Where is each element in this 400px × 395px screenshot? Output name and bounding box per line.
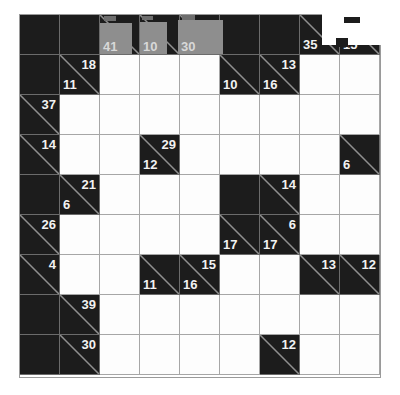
clue-right-value: 41 [103,38,117,51]
highlight-notch-2 [182,15,195,20]
clue-cell: 14 [260,175,300,215]
entry-cell[interactable] [300,215,340,255]
block-cell [260,15,300,55]
clue-down-value: 15 [202,258,216,271]
block-cell [60,15,100,55]
clue-cell: 1516 [180,255,220,295]
entry-cell[interactable] [100,215,140,255]
clue-right-value: 6 [63,198,70,211]
clue-right-value: 10 [223,78,237,91]
entry-cell[interactable] [180,55,220,95]
clue-cell: 12 [340,255,380,295]
block-cell [20,15,60,55]
clue-right-value: 10 [143,38,157,51]
entry-cell[interactable] [100,135,140,175]
clue-down-value: 14 [282,178,296,191]
clue-down-value: 6 [289,218,296,231]
clue-down-value: 12 [282,338,296,351]
clue-down-value: 12 [362,258,376,271]
entry-cell[interactable] [180,135,220,175]
entry-cell[interactable] [140,335,180,375]
block-cell [20,295,60,335]
entry-cell[interactable] [220,255,260,295]
highlight-notch-1 [142,16,153,20]
kakuro-grid[interactable]: 4110303515181110131637142912621614261761… [19,14,381,378]
entry-cell[interactable] [180,175,220,215]
entry-cell[interactable] [340,295,380,335]
entry-cell[interactable] [260,135,300,175]
clue-down-value: 30 [82,338,96,351]
entry-cell[interactable] [60,95,100,135]
clue-cell: 10 [220,55,260,95]
clue-cell: 6 [340,135,380,175]
entry-cell[interactable] [340,175,380,215]
entry-cell[interactable] [220,335,260,375]
entry-cell[interactable] [340,55,380,95]
entry-cell[interactable] [100,335,140,375]
clue-right-value: 17 [263,238,277,251]
block-cell [20,335,60,375]
block-cell [20,175,60,215]
clue-down-value: 13 [322,258,336,271]
clue-down-value: 26 [42,218,56,231]
clue-down-value: 37 [42,98,56,111]
entry-cell[interactable] [100,55,140,95]
clue-right-value: 11 [143,278,157,291]
entry-cell[interactable] [180,295,220,335]
entry-cell[interactable] [300,95,340,135]
entry-cell[interactable] [100,295,140,335]
entry-cell[interactable] [60,215,100,255]
clue-right-value: 35 [303,38,317,51]
clue-right-value: 17 [223,238,237,251]
clue-cell: 12 [260,335,300,375]
entry-cell[interactable] [300,335,340,375]
entry-cell[interactable] [180,215,220,255]
clue-cell: 37 [20,95,60,135]
entry-cell[interactable] [140,55,180,95]
clue-down-value: 4 [49,258,56,271]
entry-cell[interactable] [60,255,100,295]
kakuro-puzzle-root: 4110303515181110131637142912621614261761… [0,0,400,395]
entry-cell[interactable] [140,295,180,335]
clue-cell: 13 [300,255,340,295]
entry-cell[interactable] [140,95,180,135]
clue-cell: 11 [140,255,180,295]
clue-cell: 10 [140,15,180,55]
clue-down-value: 29 [162,138,176,151]
clue-cell: 14 [20,135,60,175]
clue-right-value: 30 [183,38,197,51]
entry-cell[interactable] [220,135,260,175]
block-cell [220,15,260,55]
clue-down-value: 21 [82,178,96,191]
entry-cell[interactable] [140,175,180,215]
entry-cell[interactable] [180,335,220,375]
clue-cell: 30 [180,15,220,55]
entry-cell[interactable] [180,95,220,135]
entry-cell[interactable] [300,295,340,335]
entry-cell[interactable] [300,135,340,175]
entry-cell[interactable] [220,95,260,135]
block-cell [220,175,260,215]
clue-cell: 216 [60,175,100,215]
entry-cell[interactable] [260,255,300,295]
entry-cell[interactable] [340,335,380,375]
clue-down-value: 14 [42,138,56,151]
entry-cell[interactable] [220,295,260,335]
overlay-notch-1 [336,38,348,47]
entry-cell[interactable] [260,295,300,335]
clue-right-value: 11 [63,78,77,91]
highlight-notch-0 [104,16,116,21]
entry-cell[interactable] [300,55,340,95]
entry-cell[interactable] [140,215,180,255]
entry-cell[interactable] [100,95,140,135]
entry-cell[interactable] [100,255,140,295]
entry-cell[interactable] [100,175,140,215]
entry-cell[interactable] [340,215,380,255]
entry-cell[interactable] [260,95,300,135]
entry-cell[interactable] [60,135,100,175]
entry-cell[interactable] [300,175,340,215]
clue-cell: 26 [20,215,60,255]
entry-cell[interactable] [340,95,380,135]
clue-cell: 41 [100,15,140,55]
clue-cell: 1811 [60,55,100,95]
